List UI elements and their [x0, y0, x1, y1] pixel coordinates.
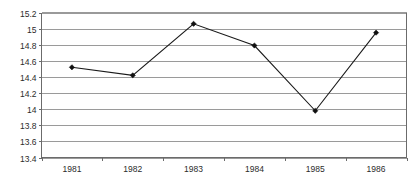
- y-tick-label: 13.4: [20, 154, 37, 164]
- line-chart: 15.21514.814.614.414.21413.813.613.4 198…: [0, 0, 417, 186]
- y-tick-label: 14: [27, 105, 37, 115]
- x-tick-label: 1982: [123, 164, 142, 174]
- y-tick-label: 14.6: [20, 57, 37, 67]
- screenshot-root: 15.21514.814.614.414.21413.813.613.4 198…: [0, 0, 417, 186]
- y-tick-label: 13.6: [20, 137, 37, 147]
- x-tick-label: 1986: [367, 164, 386, 174]
- y-tick-label: 15.2: [20, 9, 37, 19]
- y-tick-label: 15: [27, 25, 37, 35]
- y-tick-label: 14.4: [20, 73, 37, 83]
- y-tick-label: 14.2: [20, 89, 37, 99]
- x-tick-label: 1985: [306, 164, 325, 174]
- chart-canvas: 15.21514.814.614.414.21413.813.613.4 198…: [0, 0, 417, 186]
- x-tick-label: 1981: [62, 164, 81, 174]
- x-tick-label: 1983: [184, 164, 203, 174]
- y-tick-label: 14.8: [20, 41, 37, 51]
- y-tick-label: 13.8: [20, 121, 37, 131]
- x-tick-label: 1984: [245, 164, 264, 174]
